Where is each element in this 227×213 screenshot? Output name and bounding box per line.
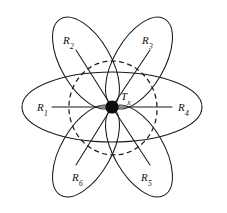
- label-transmitter-tx: Tx: [121, 91, 130, 105]
- receiver-symbol: R: [72, 171, 79, 183]
- receiver-symbol: R: [178, 101, 185, 113]
- label-receiver-r4: R4: [178, 102, 188, 116]
- radiation-pattern-figure: Tx R1 R2 R3 R4 R5 R6: [0, 0, 227, 213]
- lobe-upper-right: [92, 6, 186, 119]
- ray-to-r5: [112, 107, 150, 165]
- receiver-subscript: 1: [44, 109, 48, 118]
- ray-to-r3: [112, 50, 150, 107]
- label-receiver-r6: R6: [72, 172, 82, 186]
- receiver-subscript: 5: [148, 179, 152, 188]
- lobe-lower-right: [92, 94, 186, 207]
- label-receiver-r5: R5: [141, 172, 151, 186]
- receiver-subscript: 2: [70, 42, 74, 51]
- label-receiver-r3: R3: [142, 35, 152, 49]
- label-receiver-r1: R1: [37, 102, 47, 116]
- figure-canvas: [0, 0, 227, 213]
- receiver-symbol: R: [142, 34, 149, 46]
- receiver-symbol: R: [141, 171, 148, 183]
- transmitter-node: [105, 100, 118, 113]
- transmitter-subscript: x: [127, 98, 130, 107]
- receiver-symbol: R: [63, 34, 70, 46]
- receiver-subscript: 4: [185, 109, 189, 118]
- lobe-lower-left: [39, 94, 133, 207]
- label-receiver-r2: R2: [63, 35, 73, 49]
- receiver-symbol: R: [37, 101, 44, 113]
- receiver-subscript: 6: [79, 179, 83, 188]
- lobe-upper-left: [39, 6, 133, 119]
- receiver-subscript: 3: [149, 42, 153, 51]
